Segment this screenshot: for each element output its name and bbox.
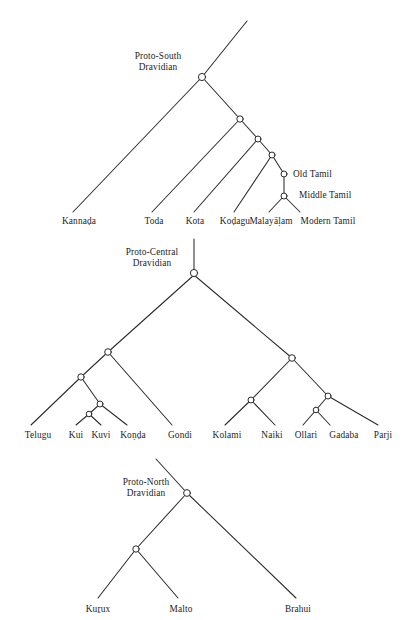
branch-central-root-to-left	[108, 275, 194, 352]
node-central-l2	[78, 374, 84, 380]
branch-l2-to-telugu	[31, 377, 81, 425]
node-central-l1	[105, 349, 112, 356]
branch-c-to-kota	[194, 139, 258, 212]
leaf-parji: Parji	[374, 430, 392, 441]
branch-central-root-to-right	[194, 275, 292, 358]
label-proto-north-dravidian: Proto-North Dravidian	[123, 477, 170, 499]
leaf-gondi: Gondi	[168, 430, 192, 441]
branch-d-to-kodagu	[234, 155, 272, 212]
leaf-konda: Koṇḍa	[120, 430, 146, 441]
node-proto-south-dravidian	[198, 73, 205, 80]
node-central-r2	[248, 397, 254, 403]
label-proto-south-dravidian-line2: Dravidian	[135, 62, 182, 73]
leaf-kui: Kui	[69, 430, 83, 441]
leaf-kuvi: Kuvi	[91, 430, 110, 441]
branch-north-root-to-n2	[136, 493, 187, 549]
dravidian-tree-diagram: Proto-South Dravidian Old Tamil Middle T…	[0, 0, 406, 620]
branch-r1-to-r2	[251, 358, 292, 400]
leaf-ollari: Ollari	[295, 430, 318, 441]
node-north-n2	[133, 546, 139, 552]
leaf-telugu: Telugu	[25, 430, 52, 441]
branch-north-root-to-brahui	[187, 493, 296, 598]
branch-r2-to-naiki	[251, 400, 275, 425]
leaf-kurux: Kuṟux	[86, 604, 111, 615]
branch-l1-to-gondi	[108, 352, 172, 425]
branch-b-to-c	[240, 119, 258, 139]
branch-n2-to-malto	[136, 549, 178, 598]
branch-n2-to-kurux	[98, 549, 136, 598]
leaf-kodagu: Koḍagu	[220, 216, 250, 227]
label-middle-tamil: Middle Tamil	[299, 190, 351, 201]
branch-l3-to-konda	[100, 404, 127, 425]
node-central-r4	[313, 407, 319, 413]
leaf-kolami: Kolami	[213, 430, 242, 441]
node-south-d	[269, 152, 275, 158]
leaf-toda: Toda	[144, 216, 163, 227]
leaf-malto: Malto	[170, 604, 193, 615]
label-proto-north-dravidian-line1: Proto-North	[123, 477, 170, 488]
leaf-gadaba: Gadaba	[329, 430, 358, 441]
label-proto-north-dravidian-line2: Dravidian	[123, 488, 170, 499]
label-old-tamil: Old Tamil	[293, 169, 332, 180]
branch-b-to-toda	[152, 119, 240, 212]
node-proto-central-dravidian	[190, 269, 197, 276]
branch-r3-to-parji	[328, 396, 378, 425]
leaf-modern-tamil: Modern Tamil	[301, 216, 356, 227]
node-central-r3	[325, 393, 331, 399]
node-central-r1	[289, 355, 296, 362]
branch-south-stem	[202, 21, 247, 77]
leaf-kannada: Kannaḍa	[62, 216, 96, 227]
node-south-c	[255, 136, 261, 142]
label-proto-south-dravidian: Proto-South Dravidian	[135, 51, 182, 73]
label-proto-central-dravidian: Proto-Central Dravidian	[126, 247, 179, 269]
leaf-naiki: Naiki	[261, 430, 282, 441]
leaf-malayalam: Malayāḷam	[249, 216, 292, 227]
node-south-b	[237, 116, 243, 122]
label-proto-central-dravidian-line2: Dravidian	[126, 258, 179, 269]
node-central-l3	[97, 401, 103, 407]
node-proto-north-dravidian	[184, 490, 191, 497]
tree-branch-lines	[0, 0, 406, 620]
node-central-l4	[86, 411, 92, 417]
node-middle-tamil	[281, 193, 287, 199]
leaf-brahui: Brahui	[285, 604, 311, 615]
label-proto-central-dravidian-line1: Proto-Central	[126, 247, 179, 258]
label-proto-south-dravidian-line1: Proto-South	[135, 51, 182, 62]
branch-r1-to-r3	[292, 358, 328, 396]
leaf-kota: Kota	[186, 216, 205, 227]
branch-l2-to-l3	[81, 377, 100, 404]
branch-r2-to-kolami	[225, 400, 251, 425]
node-old-tamil	[281, 171, 287, 177]
branch-south-root-to-b	[202, 77, 240, 119]
branch-l1-to-l2	[81, 352, 108, 377]
branch-south-to-kannada	[73, 77, 202, 212]
